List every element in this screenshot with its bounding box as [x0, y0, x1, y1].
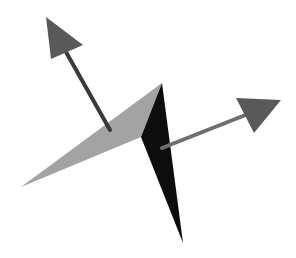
normal-arrow-left	[46, 17, 110, 130]
bent-plane	[21, 83, 183, 243]
arrow-head-icon	[46, 17, 83, 59]
arrow-shaft	[66, 52, 110, 130]
diagram-canvas	[0, 0, 296, 258]
arrow-shaft	[162, 114, 248, 148]
normal-arrow-right	[162, 98, 281, 148]
